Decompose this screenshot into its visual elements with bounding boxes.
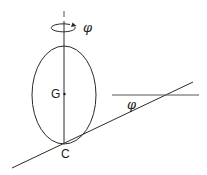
rotation-angle-label: φ — [83, 20, 93, 35]
ellipsoid-on-incline-diagram: φ G φ C — [0, 0, 207, 175]
center-of-mass-label: G — [51, 87, 60, 101]
contact-point-label: C — [61, 147, 70, 161]
incline-angle-label: φ — [127, 97, 137, 112]
center-of-mass-dot — [63, 93, 65, 95]
